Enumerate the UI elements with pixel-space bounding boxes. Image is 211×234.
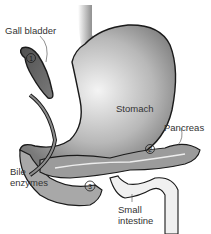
label-small-intestine: Small intestine	[118, 204, 153, 226]
label-gall-bladder: Gall bladder	[5, 25, 56, 36]
gall-bladder	[21, 47, 53, 98]
label-pancreas: Pancreas	[164, 122, 204, 133]
svg-text:3: 3	[88, 183, 92, 190]
label-bile-enzymes: Bile enzymes	[10, 166, 48, 188]
svg-text:1: 1	[29, 55, 33, 62]
label-stomach: Stomach	[116, 103, 154, 114]
svg-text:2: 2	[148, 146, 152, 153]
